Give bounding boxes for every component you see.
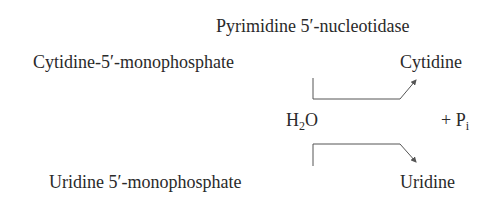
- arrow-upper: [313, 78, 416, 99]
- reaction-arrows: [0, 0, 502, 207]
- arrow-lower: [313, 144, 416, 166]
